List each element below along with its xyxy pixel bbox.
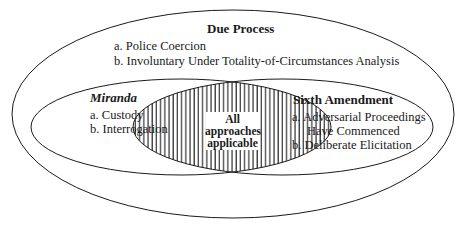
sixth-amendment-item-a: a. Adversarial Proceedings — [292, 110, 426, 125]
miranda-item-a: a. Custody — [90, 108, 143, 123]
intersection-line-3: applicable — [205, 137, 260, 149]
sixth-amendment-item-a-cont: Have Commenced — [307, 124, 400, 139]
due-process-title: Due Process — [207, 21, 274, 36]
sixth-amendment-item-b: b. Deliberate Elicitation — [292, 138, 412, 153]
due-process-item-b: b. Involuntary Under Totality-of-Circums… — [114, 54, 399, 69]
miranda-title: Miranda — [90, 90, 137, 105]
intersection-label: All approaches applicable — [205, 113, 260, 149]
intersection-line-1: All — [205, 113, 260, 125]
miranda-item-b: b. Interrogation — [90, 122, 168, 137]
sixth-amendment-title: Sixth Amendment — [293, 92, 393, 107]
due-process-item-a: a. Police Coercion — [114, 39, 206, 54]
intersection-line-2: approaches — [205, 125, 260, 137]
